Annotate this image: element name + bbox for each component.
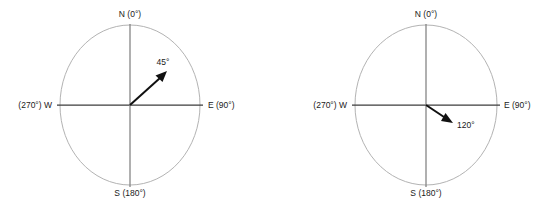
label-south: S (180°) (114, 188, 145, 198)
label-south: S (180°) (410, 188, 441, 198)
label-north: N (0°) (415, 9, 437, 19)
label-east: E (90°) (208, 100, 235, 110)
label-east: E (90°) (504, 100, 531, 110)
bearing-arrow (426, 105, 453, 123)
bearing-arrow-shaft (426, 105, 444, 117)
figure-root: N (0°) E (90°) S (180°) (270°) W 45° N (… (0, 0, 543, 207)
label-north: N (0°) (119, 9, 141, 19)
compass-diagram-left: N (0°) E (90°) S (180°) (270°) W 45° (0, 0, 271, 207)
compass-panel-left: N (0°) E (90°) S (180°) (270°) W 45° (0, 0, 271, 207)
bearing-arrow-shaft (130, 78, 160, 105)
label-west: (270°) W (313, 100, 347, 110)
bearing-angle-label: 45° (157, 57, 170, 67)
bearing-arrow (130, 71, 167, 105)
compass-panel-right: N (0°) E (90°) S (180°) (270°) W 120° (272, 0, 543, 207)
bearing-arrow-head (441, 113, 453, 123)
label-west: (270°) W (18, 100, 52, 110)
compass-diagram-right: N (0°) E (90°) S (180°) (270°) W 120° (272, 0, 543, 207)
bearing-angle-label: 120° (457, 120, 475, 130)
